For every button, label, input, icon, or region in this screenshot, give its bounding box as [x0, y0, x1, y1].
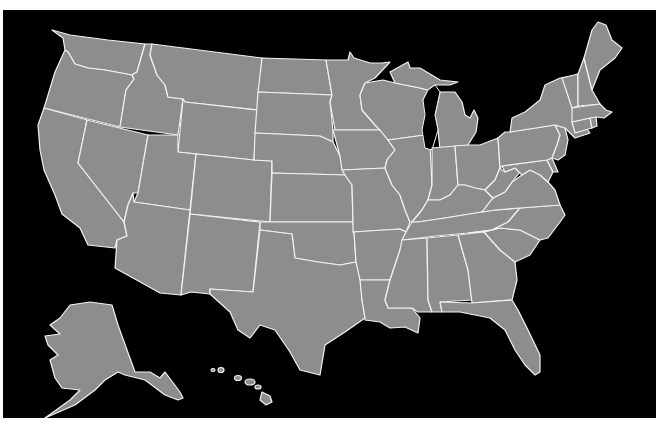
state-north-dakota[interactable] [258, 58, 332, 95]
state-maine[interactable] [584, 22, 622, 90]
state-colorado[interactable] [190, 154, 272, 222]
state-alaska[interactable] [45, 302, 183, 418]
state-florida[interactable] [440, 300, 540, 375]
state-hawaii[interactable] [211, 368, 272, 406]
state-michigan-lower[interactable] [435, 92, 478, 150]
us-map [0, 0, 669, 425]
state-wyoming[interactable] [178, 99, 258, 160]
state-new-mexico[interactable] [181, 214, 260, 295]
state-kansas[interactable] [270, 173, 353, 222]
